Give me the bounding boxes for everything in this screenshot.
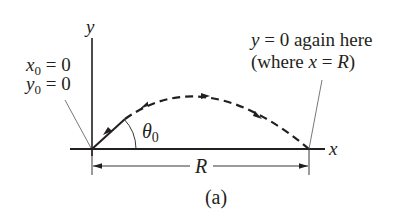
- figure-caption: (a): [205, 186, 227, 209]
- landing-leader-line: [309, 80, 322, 149]
- y-axis-label: y: [84, 16, 95, 37]
- projectile-diagram: y x x0 = 0 y0 = 0 θ0 y = 0 again here (w…: [0, 0, 416, 221]
- range-label: R: [194, 155, 207, 177]
- angle-arc: [124, 119, 136, 149]
- y0-label: y0 = 0: [24, 73, 71, 97]
- origin-leader-line: [65, 100, 91, 148]
- landing-note-line1: y = 0 again here: [249, 29, 373, 50]
- angle-label: θ0: [142, 120, 159, 145]
- launch-velocity-segment: [92, 119, 125, 149]
- landing-note-line2: (where x = R): [251, 51, 355, 73]
- x-axis-label: x: [328, 138, 338, 159]
